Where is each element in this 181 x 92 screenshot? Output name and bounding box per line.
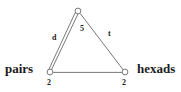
node-label-pairs: pairs bbox=[5, 62, 33, 75]
vertex-weight-hexads: 2 bbox=[122, 79, 126, 87]
edge-left-outer-line bbox=[48, 12, 76, 72]
triangle-graph-svg bbox=[0, 0, 181, 92]
vertex-weight-pairs: 2 bbox=[47, 79, 51, 87]
diagram-canvas: pairs hexads d 5 t 2 2 bbox=[0, 0, 181, 92]
edge-label-t: t bbox=[108, 30, 111, 38]
edge-label-d: d bbox=[52, 34, 56, 42]
edge-label-5: 5 bbox=[80, 25, 84, 33]
node-label-hexads: hexads bbox=[137, 62, 175, 75]
vertex-hexads[interactable] bbox=[122, 69, 128, 75]
vertex-pairs[interactable] bbox=[47, 69, 53, 75]
edge-right-line bbox=[80, 13, 123, 70]
vertex-apex[interactable] bbox=[75, 8, 81, 14]
edge-left-inner-line bbox=[51, 13, 79, 72]
